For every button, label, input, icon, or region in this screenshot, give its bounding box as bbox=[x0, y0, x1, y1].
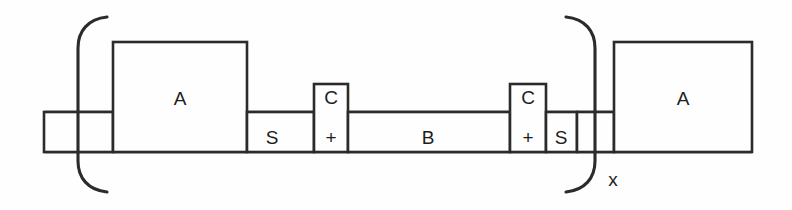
right-c-block: C + bbox=[510, 84, 546, 152]
right-s-segment: S bbox=[546, 112, 577, 152]
repeat-subscript-label: x bbox=[608, 169, 618, 190]
left-repeat-bracket bbox=[78, 17, 107, 192]
left-c-block-charge: + bbox=[325, 127, 336, 148]
left-a-block-label: A bbox=[174, 88, 187, 109]
right-a-block: A bbox=[614, 42, 752, 152]
left-c-block-label: C bbox=[324, 87, 338, 108]
right-repeat-bracket-group: x bbox=[566, 17, 618, 192]
left-s-segment-label: S bbox=[266, 127, 279, 148]
right-c-block-charge: + bbox=[522, 127, 533, 148]
right-a-block-label: A bbox=[677, 88, 690, 109]
polymer-structure-diagram: A S C + B C + S bbox=[0, 0, 792, 210]
right-c-block-label: C bbox=[521, 87, 535, 108]
right-s-segment-label: S bbox=[555, 127, 568, 148]
left-s-segment: S bbox=[247, 112, 314, 152]
b-segment: B bbox=[348, 112, 510, 152]
b-segment-label: B bbox=[422, 127, 435, 148]
right-repeat-bracket bbox=[566, 17, 595, 192]
diagram-canvas: A S C + B C + S bbox=[0, 0, 792, 210]
left-s-segment-box bbox=[247, 112, 314, 152]
left-c-block: C + bbox=[314, 84, 348, 152]
left-a-block: A bbox=[113, 42, 247, 152]
